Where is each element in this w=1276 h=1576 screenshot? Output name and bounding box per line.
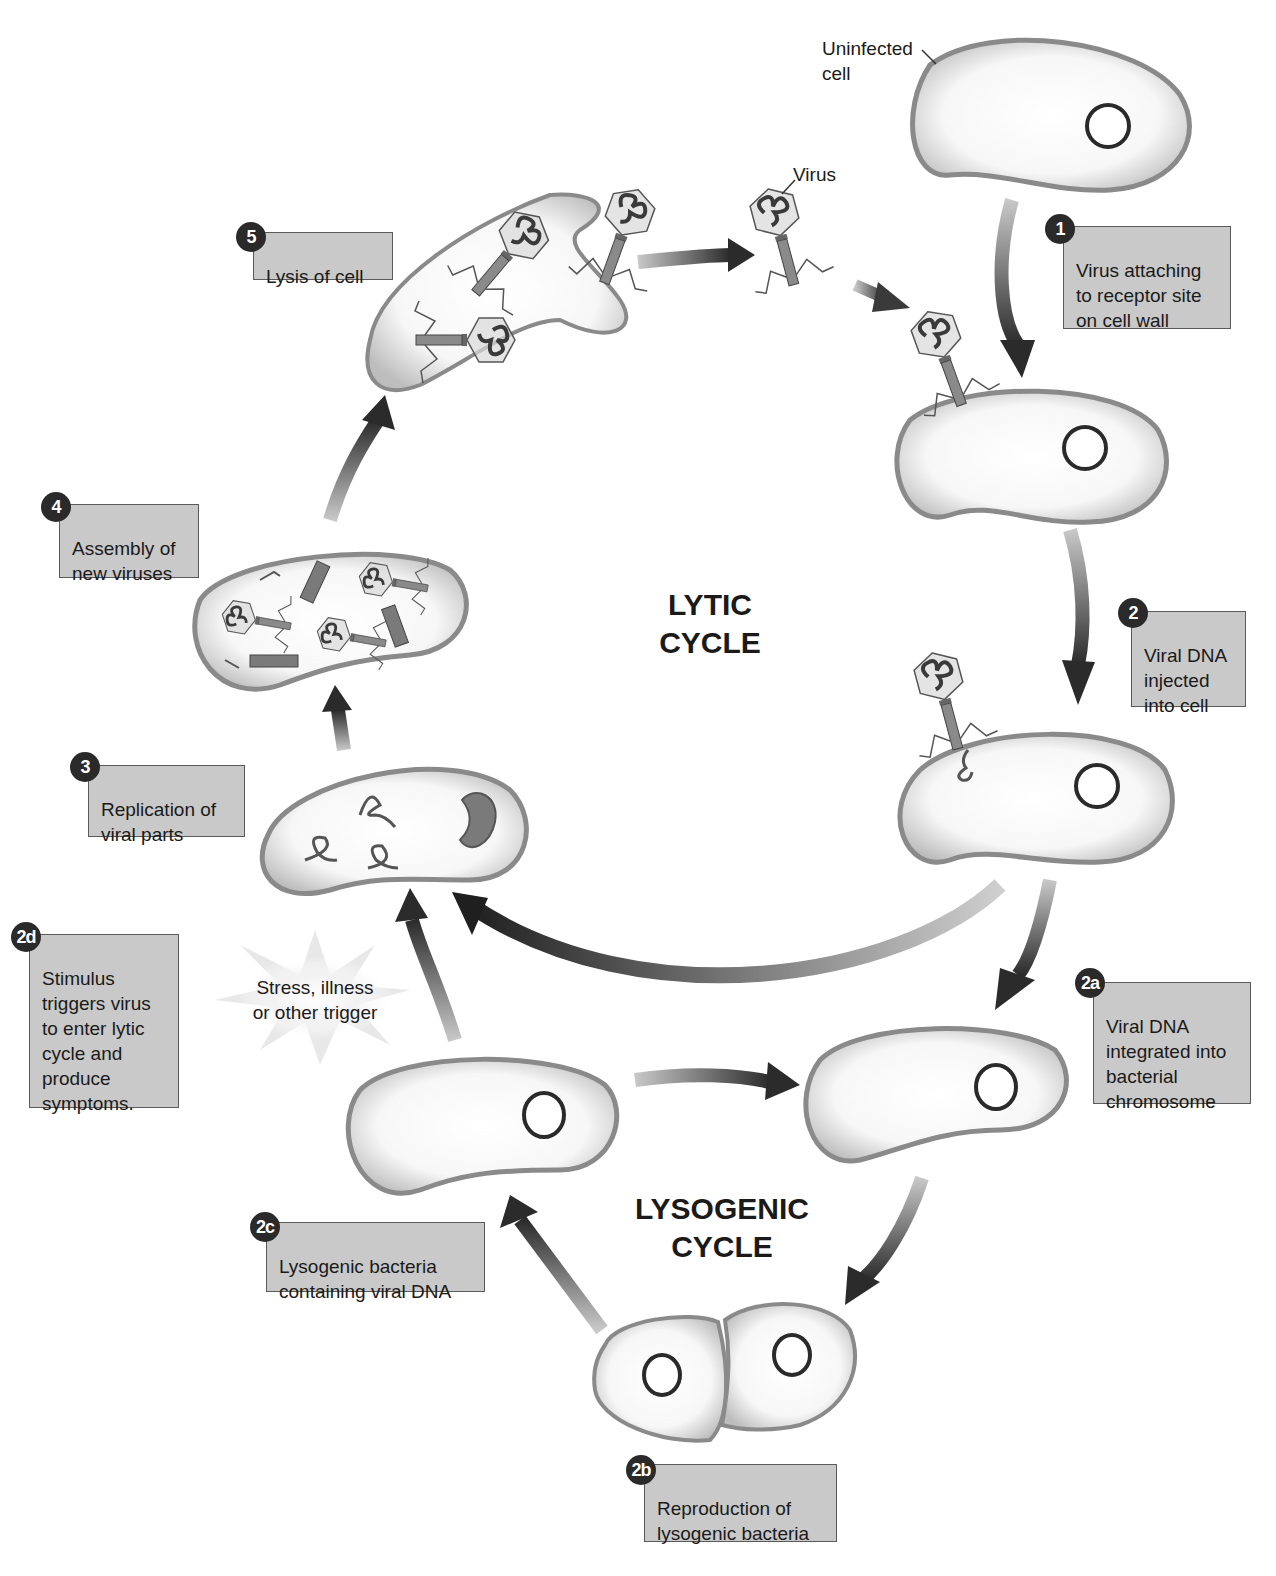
viral-replication-diagram: Uninfected cell Virus LYTIC CYCLE LYSOGE… [0, 0, 1276, 1576]
step-2c-badge: 2c [250, 1212, 280, 1242]
virus-label: Virus [793, 162, 836, 187]
step-2b-badge: 2b [626, 1455, 656, 1485]
step-2a-badge: 2a [1075, 968, 1105, 998]
step-2-box: Viral DNA injected into cell [1131, 611, 1246, 707]
lysogenic-cycle-title: LYSOGENIC CYCLE [612, 1190, 832, 1266]
uninfected-cell [913, 40, 1190, 190]
step-2c-text: Lysogenic bacteria containing viral DNA [279, 1256, 451, 1302]
step-2-text: Viral DNA injected into cell [1144, 645, 1227, 716]
step-2d-badge: 2d [11, 922, 41, 952]
step-4-box: Assembly of new viruses [59, 504, 199, 578]
step-2b-text: Reproduction of lysogenic bacteria [657, 1498, 809, 1544]
lytic-cycle-title: LYTIC CYCLE [640, 586, 780, 662]
step-3-badge: 3 [70, 752, 100, 782]
step-1-badge: 1 [1045, 214, 1075, 244]
step-2d-box: Stimulus triggers virus to enter lytic c… [29, 934, 179, 1108]
trigger-label: Stress, illness or other trigger [230, 975, 400, 1025]
step-4-text: Assembly of new viruses [72, 538, 175, 584]
step-1-box: Virus attaching to receptor site on cell… [1063, 226, 1231, 329]
step-2-badge: 2 [1118, 598, 1148, 628]
lysogenic-cell-2c [348, 1059, 616, 1193]
step-3-box: Replication of viral parts [88, 765, 245, 837]
uninfected-cell-label: Uninfected cell [822, 36, 913, 86]
step-5-text: Lysis of cell [266, 266, 364, 287]
step-2a-text: Viral DNA integrated into bacterial chro… [1106, 1016, 1226, 1112]
dividing-cells-2b [594, 1304, 855, 1441]
step-4-badge: 4 [41, 492, 71, 522]
step-2a-box: Viral DNA integrated into bacterial chro… [1093, 982, 1251, 1104]
step-5-box: Lysis of cell [253, 232, 393, 280]
step-5-badge: 5 [236, 222, 266, 252]
step-2d-text: Stimulus triggers virus to enter lytic c… [42, 968, 151, 1114]
replication-cell [262, 769, 526, 893]
assembly-cell [195, 547, 467, 690]
step-1-text: Virus attaching to receptor site on cell… [1076, 260, 1202, 331]
integrated-cell-2a [806, 1029, 1067, 1161]
lysing-cell [367, 176, 678, 390]
step-2c-box: Lysogenic bacteria containing viral DNA [266, 1222, 485, 1292]
free-virus [731, 178, 836, 296]
step-2b-box: Reproduction of lysogenic bacteria [644, 1464, 837, 1542]
